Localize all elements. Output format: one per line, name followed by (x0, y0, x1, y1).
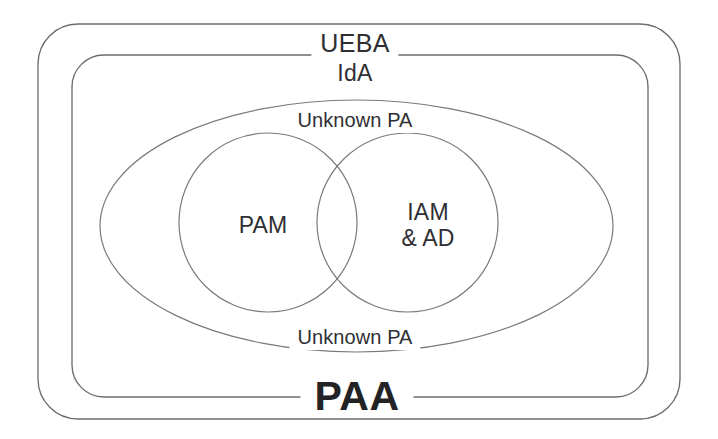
unknown-pa-bottom-label: Unknown PA (289, 324, 420, 350)
ueba-label: UEBA (311, 28, 398, 59)
venn-diagram: UEBA IdA Unknown PA Unknown PA PAM IAM &… (0, 0, 718, 439)
iam-ad-label-line1: IAM (401, 200, 454, 226)
paa-label: PAA (300, 375, 413, 418)
ida-label: IdA (328, 59, 381, 88)
unknown-pa-top-label: Unknown PA (289, 107, 420, 133)
pam-label: PAM (232, 212, 295, 239)
iam-ad-label-line2: & AD (401, 226, 454, 252)
iam-ad-label: IAM & AD (394, 198, 461, 254)
